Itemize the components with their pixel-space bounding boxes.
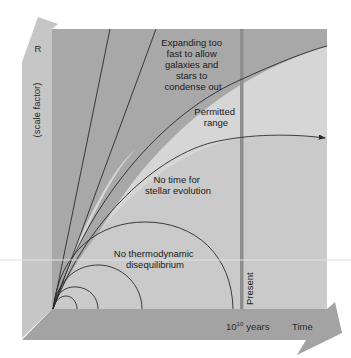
x-axis-label: Time <box>292 321 313 332</box>
label-no-thermodynamic-disequilibrium: No thermodynamic disequilibrium <box>114 248 196 270</box>
y-axis-label: (scale factor) <box>31 83 42 138</box>
cosmology-diagram: R (scale factor) Expanding too fast to a… <box>0 0 351 358</box>
label-no-stellar-evolution: No time for stellar evolution <box>145 174 211 196</box>
label-expanding-too-fast: Expanding too fast to allow galaxies and… <box>161 37 224 92</box>
present-line <box>240 29 244 309</box>
present-label: Present <box>244 272 255 305</box>
x-axis-tick-label: 1010years <box>226 321 270 332</box>
y-axis-symbol: R <box>35 43 42 54</box>
